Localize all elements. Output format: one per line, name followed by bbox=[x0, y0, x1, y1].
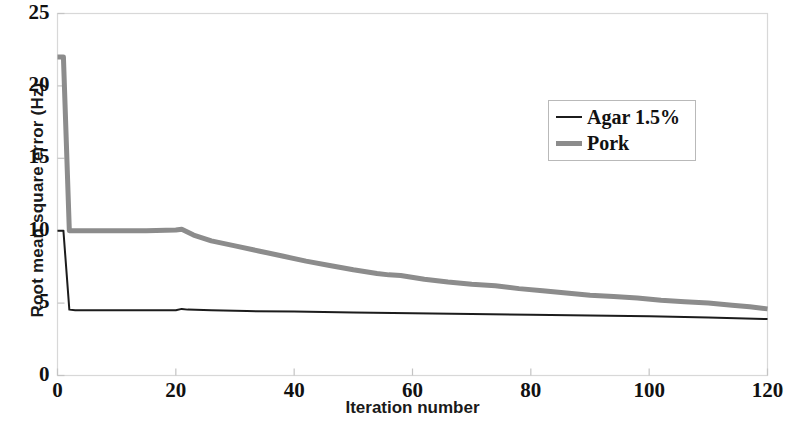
legend-label-pork: Pork bbox=[587, 133, 629, 153]
chart-figure: Root mean square error (Hz) Iteration nu… bbox=[0, 0, 787, 427]
y-tick-label: 10 bbox=[4, 217, 50, 242]
x-tick-label: 40 bbox=[264, 378, 324, 403]
legend-line-swatch-agar bbox=[556, 116, 582, 118]
x-tick-label: 80 bbox=[501, 378, 561, 403]
y-tick-label: 25 bbox=[4, 0, 50, 25]
legend-line-swatch-pork bbox=[556, 141, 582, 146]
chart-legend: Agar 1.5% Pork bbox=[548, 100, 696, 161]
x-tick-label: 60 bbox=[383, 378, 443, 403]
x-tick-label: 0 bbox=[28, 378, 88, 403]
legend-label-agar: Agar 1.5% bbox=[587, 107, 680, 127]
legend-item-agar: Agar 1.5% bbox=[556, 104, 680, 130]
y-tick-label: 20 bbox=[4, 72, 50, 97]
legend-item-pork: Pork bbox=[556, 130, 629, 156]
y-tick-label: 5 bbox=[4, 289, 50, 314]
x-tick-label: 20 bbox=[146, 378, 206, 403]
y-tick-label: 15 bbox=[4, 144, 50, 169]
plot-area bbox=[0, 0, 787, 427]
axes-frame bbox=[58, 14, 768, 376]
x-tick-label: 100 bbox=[619, 378, 679, 403]
x-tick-label: 120 bbox=[738, 378, 787, 403]
